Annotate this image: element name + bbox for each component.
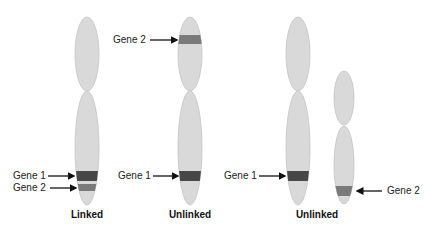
chromosome-lower-arm: [286, 91, 310, 205]
panel-caption: Unlinked: [296, 209, 338, 221]
chromosome-linked: [48, 17, 100, 205]
gene-label: Gene 1: [118, 170, 151, 182]
gene-label: Gene 2: [387, 185, 420, 197]
gene-label: Gene 1: [224, 170, 257, 182]
chromosome-unlinked-distant: [150, 17, 203, 205]
chromosome-upper-arm: [286, 17, 310, 91]
chromosome-unlinked-first: [259, 17, 311, 205]
gene-1-band: [74, 171, 100, 181]
gene-2-band: [74, 184, 100, 191]
gene-label: Gene 2: [13, 182, 46, 194]
gene-2-band: [177, 35, 203, 44]
chromosome-upper-arm: [75, 17, 99, 91]
chromosome-lower-arm: [178, 91, 202, 205]
chromosome-upper-arm: [178, 17, 202, 91]
chromosome-upper-arm: [334, 71, 354, 125]
chromosome-unlinked-second: [333, 71, 382, 204]
panel-caption: Linked: [71, 209, 103, 221]
panel-caption: Unlinked: [169, 209, 211, 221]
gene-label: Gene 1: [13, 170, 46, 182]
diagram-canvas: [0, 0, 427, 228]
gene-1-band: [285, 171, 311, 181]
gene-1-band: [177, 171, 203, 181]
gene-label: Gene 2: [113, 34, 146, 46]
